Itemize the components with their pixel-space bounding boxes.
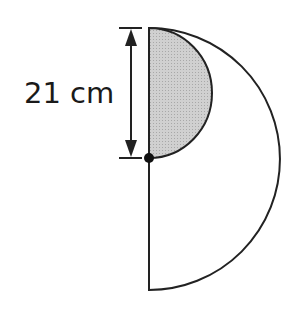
dimension-label: 21 cm <box>24 76 114 110</box>
dimension-arrow <box>119 28 142 158</box>
center-point <box>144 153 154 163</box>
semicircle-diagram: 21 cm <box>0 0 293 311</box>
